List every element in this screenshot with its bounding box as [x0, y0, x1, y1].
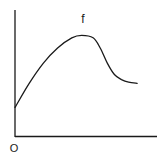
function-label: f — [81, 12, 85, 26]
function-plot: f O — [0, 0, 164, 157]
origin-label: O — [10, 142, 19, 154]
curve-f — [15, 35, 137, 107]
